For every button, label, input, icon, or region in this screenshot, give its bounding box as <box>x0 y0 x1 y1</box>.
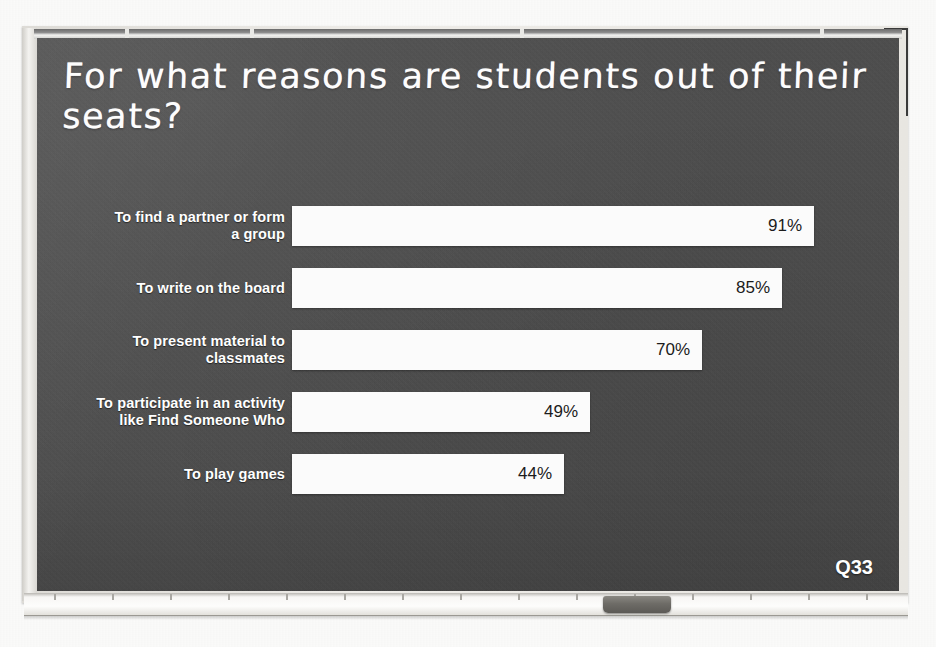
chart-bar: 70% <box>292 330 702 370</box>
bar-value-label: 85% <box>736 278 782 298</box>
tray-notch <box>54 594 56 600</box>
chart-bar: 91% <box>292 206 814 246</box>
tray-notch <box>460 594 462 600</box>
bar-category-label: To present material toclassmates <box>37 333 285 367</box>
slide-content: For what reasons are students out of the… <box>37 38 899 591</box>
tray-shadow <box>24 616 908 620</box>
frame-left-rail <box>22 28 37 601</box>
tray-notch <box>344 594 346 600</box>
chart-bar-row: To write on the board85% <box>37 268 899 308</box>
chart-bar: 44% <box>292 454 564 494</box>
whiteboard-marker-tray <box>24 593 908 616</box>
bar-value-label: 49% <box>544 402 590 422</box>
chart-bar-row: To present material toclassmates70% <box>37 330 899 370</box>
bar-category-label: To participate in an activitylike Find S… <box>37 395 285 429</box>
bar-category-label: To play games <box>37 466 285 483</box>
horizontal-bar-chart: To find a partner or forma group91%To wr… <box>37 206 899 516</box>
question-number-badge: Q33 <box>835 556 873 579</box>
chart-bar-row: To participate in an activitylike Find S… <box>37 392 899 432</box>
tray-notch <box>750 594 752 600</box>
chart-bar: 85% <box>292 268 782 308</box>
bar-value-label: 91% <box>768 216 814 236</box>
page-title: For what reasons are students out of the… <box>62 56 885 136</box>
chart-bar-row: To play games44% <box>37 454 899 494</box>
tray-notch <box>112 594 114 600</box>
tray-notch <box>228 594 230 600</box>
chart-bar-row: To find a partner or forma group91% <box>37 206 899 246</box>
tray-notch <box>866 594 868 600</box>
bar-value-label: 44% <box>518 464 564 484</box>
tray-notch <box>576 594 578 600</box>
tray-notch <box>808 594 810 600</box>
tray-notch <box>518 594 520 600</box>
page-edge-line <box>906 28 908 116</box>
bar-value-label: 70% <box>656 340 702 360</box>
tray-notch <box>402 594 404 600</box>
tray-notch <box>286 594 288 600</box>
chalkboard-slide: For what reasons are students out of the… <box>37 38 899 591</box>
tray-notch <box>692 594 694 600</box>
bar-category-label: To write on the board <box>37 280 285 297</box>
bar-category-label: To find a partner or forma group <box>37 209 285 243</box>
whiteboard-eraser <box>603 596 671 613</box>
chart-bar: 49% <box>292 392 590 432</box>
tray-notch <box>170 594 172 600</box>
